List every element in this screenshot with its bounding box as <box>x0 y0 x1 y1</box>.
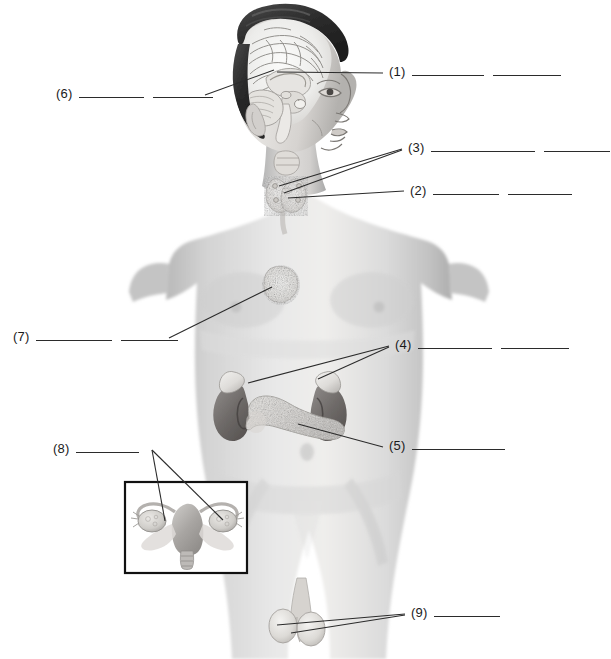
label-blank-4[interactable]: (4) <box>395 338 569 351</box>
label-blank-8[interactable]: (8) <box>53 442 139 455</box>
label-number-6: (6) <box>56 87 73 100</box>
larynx <box>274 151 299 175</box>
label-blank-6[interactable]: (6) <box>56 87 213 100</box>
answer-blank-8-1[interactable] <box>76 452 139 453</box>
answer-blank-6-2[interactable] <box>153 97 213 98</box>
label-blank-9[interactable]: (9) <box>411 606 500 619</box>
label-blank-5[interactable]: (5) <box>389 439 505 452</box>
pituitary-gland <box>295 99 306 109</box>
hypothalamus <box>281 91 291 98</box>
testis-right <box>297 612 325 646</box>
label-blank-3[interactable]: (3) <box>408 141 610 154</box>
answer-blank-1-2[interactable] <box>493 75 561 76</box>
answer-blank-9-1[interactable] <box>434 616 500 617</box>
answer-blank-3-1[interactable] <box>431 151 535 152</box>
label-blank-2[interactable]: (2) <box>410 184 572 197</box>
label-number-5: (5) <box>389 439 406 452</box>
answer-blank-6-1[interactable] <box>79 97 144 98</box>
label-blank-1[interactable]: (1) <box>389 65 561 78</box>
label-blank-7[interactable]: (7) <box>13 330 178 343</box>
answer-blank-3-2[interactable] <box>544 151 610 152</box>
label-number-3: (3) <box>408 141 425 154</box>
answer-blank-4-2[interactable] <box>501 348 569 349</box>
answer-blank-7-1[interactable] <box>36 340 112 341</box>
answer-blank-2-2[interactable] <box>508 194 572 195</box>
answer-blank-1-1[interactable] <box>412 75 484 76</box>
answer-blank-5-1[interactable] <box>412 449 505 450</box>
thymus <box>262 265 300 305</box>
answer-blank-7-2[interactable] <box>121 340 178 341</box>
label-number-8: (8) <box>53 442 70 455</box>
thyroid-texture <box>264 176 308 216</box>
label-number-4: (4) <box>395 338 412 351</box>
testis-left <box>269 609 297 643</box>
label-number-9: (9) <box>411 606 428 619</box>
female-reproductive-inset <box>125 482 247 573</box>
body-figure <box>125 4 489 659</box>
answer-blank-4-1[interactable] <box>418 348 492 349</box>
answer-blank-2-1[interactable] <box>433 194 499 195</box>
label-number-1: (1) <box>389 65 406 78</box>
endocrine-diagram-page: (1)(2)(3)(4)(5)(6)(7)(8)(9) <box>0 0 611 659</box>
ovary-left <box>138 510 166 532</box>
label-number-7: (7) <box>13 330 30 343</box>
label-number-2: (2) <box>410 184 427 197</box>
ovary-right <box>209 510 237 532</box>
